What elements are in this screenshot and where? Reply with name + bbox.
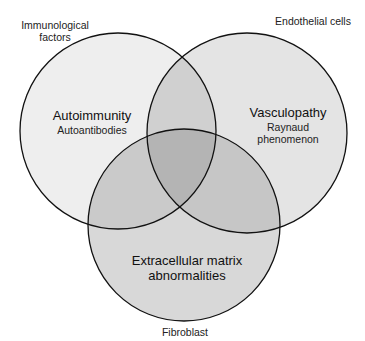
- autoantibodies-subtitle: Autoantibodies: [42, 124, 142, 136]
- autoimmunity-title: Autoimmunity: [42, 109, 142, 124]
- ecm-title-line2: abnormalities: [117, 269, 257, 284]
- set-autoimmunity: Autoimmunity Autoantibodies: [42, 109, 142, 136]
- set-extracellular-matrix: Extracellular matrix abnormalities: [117, 254, 257, 284]
- label-fibroblast: Fibroblast: [155, 326, 215, 338]
- label-immunological-factors: Immunological factors: [20, 19, 90, 43]
- label-immunological-line2: factors: [20, 31, 90, 43]
- ecm-title-line1: Extracellular matrix: [117, 254, 257, 269]
- label-immunological-line1: Immunological: [20, 19, 90, 31]
- venn-diagram: [0, 0, 365, 341]
- label-endothelial-cells: Endothelial cells: [270, 15, 356, 27]
- raynaud-subtitle: Raynaud: [238, 121, 338, 133]
- phenomenon-subtitle: phenomenon: [238, 133, 338, 145]
- set-vasculopathy: Vasculopathy Raynaud phenomenon: [238, 106, 338, 145]
- vasculopathy-title: Vasculopathy: [238, 106, 338, 121]
